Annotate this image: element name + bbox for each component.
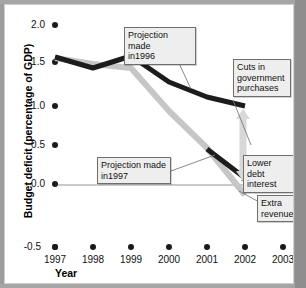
annotation-cuts-in-government-purchases: Cuts in government purchases xyxy=(233,59,291,97)
annotation-extra-revenue: Extra revenue xyxy=(257,195,294,222)
annotation-lower-debt-interest: Lower debt interest xyxy=(243,155,294,193)
leader-line-projection-1997 xyxy=(171,155,215,171)
leader-line-extra-revenue xyxy=(239,191,259,202)
annotation-projection-1996: Projection made in1996 xyxy=(124,27,196,65)
figure-container: Budget deficit (percentage of GDP) 2.0 1… xyxy=(0,0,306,288)
frame-right-edge xyxy=(295,0,306,288)
annotation-projection-1997: Projection made in1997 xyxy=(97,157,171,184)
chart-card: Budget deficit (percentage of GDP) 2.0 1… xyxy=(4,4,294,284)
frame-bottom-edge xyxy=(0,284,306,288)
